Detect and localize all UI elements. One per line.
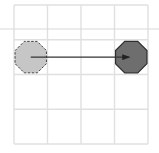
move-diagram [0,0,159,153]
grid [14,5,148,144]
